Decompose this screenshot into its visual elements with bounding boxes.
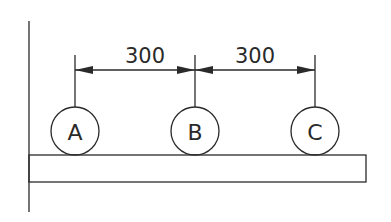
dimension-label-ab: 300 <box>125 44 165 68</box>
arrowhead-b-right <box>195 66 213 74</box>
node-label-a: A <box>67 120 82 145</box>
arrowhead-c-left <box>297 66 315 74</box>
arrowhead-a-right <box>75 66 93 74</box>
dimension-label-bc: 300 <box>235 44 275 68</box>
node-label-b: B <box>187 120 202 145</box>
arrowhead-b-left <box>177 66 195 74</box>
diagram-canvas: 300 300 A B C <box>0 0 391 222</box>
node-label-c: C <box>307 120 322 145</box>
beam <box>29 155 366 182</box>
